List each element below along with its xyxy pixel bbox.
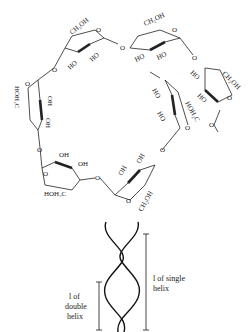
svg-text:HO: HO — [88, 51, 101, 64]
single-helix-label-1: l of single — [153, 274, 185, 283]
double-helix — [105, 222, 140, 332]
svg-text:O: O — [43, 170, 48, 178]
svg-text:O: O — [96, 26, 101, 34]
glucose-ring-4 — [150, 72, 188, 150]
svg-text:HOH₂C: HOH₂C — [13, 86, 21, 109]
svg-text:CH₂OH: CH₂OH — [221, 70, 242, 91]
svg-text:O: O — [185, 124, 190, 132]
svg-text:O: O — [227, 94, 232, 102]
svg-text:OH: OH — [44, 118, 52, 128]
svg-text:HO: HO — [133, 52, 146, 64]
svg-text:HO: HO — [66, 59, 79, 72]
svg-text:OH: OH — [78, 160, 88, 168]
svg-text:HO: HO — [155, 110, 167, 123]
svg-text:CH₂OH: CH₂OH — [142, 11, 166, 28]
svg-text:HOH₂C: HOH₂C — [183, 100, 201, 124]
svg-text:O: O — [172, 26, 177, 34]
svg-text:OH: OH — [59, 151, 69, 159]
svg-text:HOH₂C: HOH₂C — [44, 190, 67, 198]
svg-text:OH: OH — [46, 96, 54, 106]
svg-text:O: O — [209, 121, 214, 129]
svg-text:CH₂OH: CH₂OH — [137, 190, 155, 213]
svg-text:OH: OH — [117, 164, 129, 177]
svg-text:CH₂OH: CH₂OH — [68, 16, 90, 36]
svg-text:O: O — [126, 197, 131, 205]
svg-text:HO: HO — [196, 92, 209, 105]
oxygen-atoms: O O O O O O O O O O O O O O — [25, 26, 232, 205]
glucose-chain — [28, 30, 232, 200]
substituent-labels: CH₂OH HO HO CH₂OH HO HO CH₂OH HO HO HO H… — [13, 11, 242, 213]
amylose-helix-figure: O O O O O O O O O O O O O O CH₂OH HO HO … — [0, 0, 248, 332]
svg-text:O: O — [37, 146, 42, 154]
svg-text:HO: HO — [189, 69, 202, 82]
double-helix-label-2: double — [65, 302, 87, 311]
svg-text:O: O — [120, 44, 125, 52]
svg-text:O: O — [25, 80, 30, 88]
svg-text:O: O — [52, 66, 57, 74]
double-helix-label-3: helix — [67, 312, 83, 321]
double-helix-label-1: l of — [69, 292, 80, 301]
measure-bars — [96, 234, 149, 330]
single-helix-label-2: helix — [153, 284, 169, 293]
svg-text:HO: HO — [155, 50, 168, 62]
svg-text:OH: OH — [135, 152, 147, 165]
svg-text:O: O — [192, 54, 197, 62]
svg-text:O: O — [160, 146, 165, 154]
svg-text:HO: HO — [150, 87, 162, 100]
svg-text:O: O — [95, 174, 100, 182]
